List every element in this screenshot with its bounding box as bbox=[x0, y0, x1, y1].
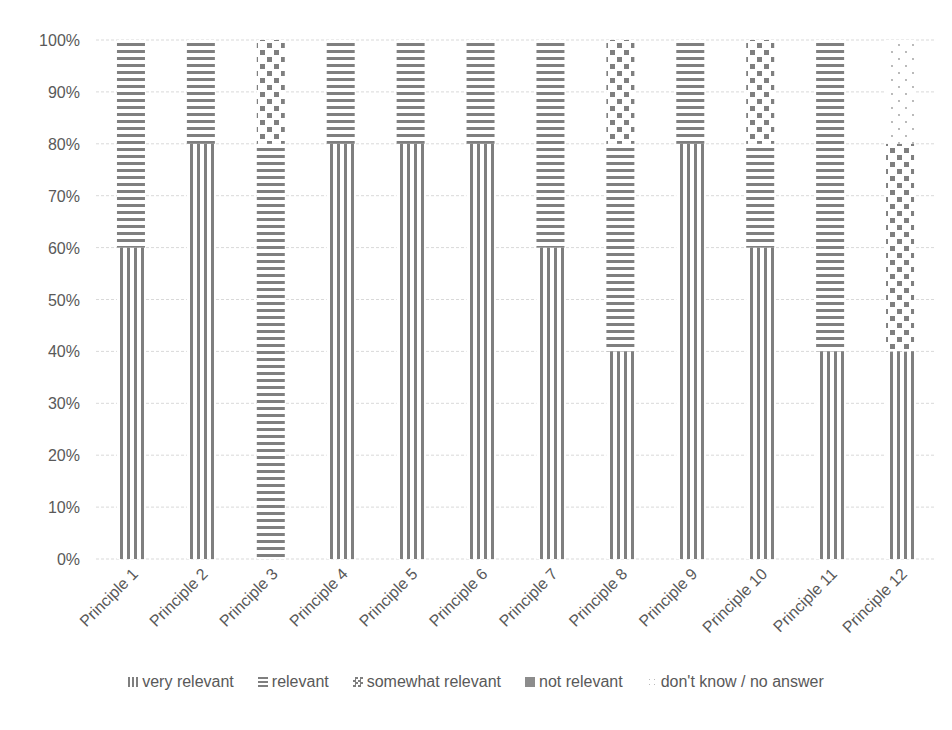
y-tick-label: 40% bbox=[48, 343, 80, 360]
legend-swatch-icon bbox=[258, 677, 268, 687]
y-tick-label: 20% bbox=[48, 447, 80, 464]
bar-segment-very-relevant bbox=[746, 248, 774, 559]
x-tick-label: Principle 10 bbox=[699, 565, 770, 636]
y-tick-label: 30% bbox=[48, 395, 80, 412]
bar-segment-very-relevant bbox=[676, 144, 704, 559]
bar-segment-relevant bbox=[327, 40, 355, 144]
legend-label: very relevant bbox=[142, 673, 234, 691]
bar-3 bbox=[257, 40, 285, 559]
x-tick-label: Principle 3 bbox=[216, 565, 281, 630]
bar-segment-relevant bbox=[536, 40, 564, 248]
y-tick-label: 90% bbox=[48, 84, 80, 101]
legend-swatch-icon bbox=[353, 677, 363, 687]
bar-8 bbox=[606, 40, 634, 559]
bar-segment-very-relevant bbox=[117, 248, 145, 559]
x-tick-label: Principle 11 bbox=[770, 565, 840, 635]
bar-10 bbox=[746, 40, 774, 559]
bar-segment-very-relevant bbox=[536, 248, 564, 559]
legend-label: not relevant bbox=[539, 673, 623, 691]
bar-segment-relevant bbox=[816, 40, 844, 351]
bar-segment-somewhat-relevant bbox=[257, 40, 285, 144]
legend-item: not relevant bbox=[525, 673, 623, 691]
x-tick-label: Principle 1 bbox=[76, 565, 141, 630]
bar-segment-somewhat-relevant bbox=[606, 40, 634, 144]
legend-swatch-icon bbox=[128, 677, 138, 687]
x-axis: Principle 1Principle 2Principle 3Princip… bbox=[76, 565, 910, 636]
bar-segment-very-relevant bbox=[467, 144, 495, 559]
bar-segment-very-relevant bbox=[397, 144, 425, 559]
x-tick-label: Principle 5 bbox=[356, 565, 421, 630]
x-tick-label: Principle 2 bbox=[146, 565, 211, 630]
y-axis: 0%10%20%30%40%50%60%70%80%90%100% bbox=[39, 32, 80, 568]
legend-swatch-icon bbox=[647, 677, 657, 687]
bar-9 bbox=[676, 40, 704, 559]
y-tick-label: 0% bbox=[57, 551, 80, 568]
bar-segment-somewhat-relevant bbox=[886, 144, 914, 352]
bar-segment-relevant bbox=[397, 40, 425, 144]
x-tick-label: Principle 6 bbox=[426, 565, 491, 630]
legend-item: very relevant bbox=[128, 673, 234, 691]
bar-5 bbox=[397, 40, 425, 559]
bar-12 bbox=[886, 40, 914, 559]
y-tick-label: 60% bbox=[48, 240, 80, 257]
x-tick-label: Principle 9 bbox=[636, 565, 701, 630]
bar-segment-relevant bbox=[467, 40, 495, 144]
legend-item: relevant bbox=[258, 673, 329, 691]
bar-segment-very-relevant bbox=[187, 144, 215, 559]
legend-label: relevant bbox=[272, 673, 329, 691]
gridlines bbox=[96, 40, 935, 559]
bar-segment-relevant bbox=[746, 144, 774, 248]
bar-4 bbox=[327, 40, 355, 559]
bar-segment-relevant bbox=[117, 40, 145, 248]
y-tick-label: 70% bbox=[48, 188, 80, 205]
x-tick-label: Principle 7 bbox=[496, 565, 561, 630]
y-tick-label: 100% bbox=[39, 32, 80, 49]
legend: very relevantrelevantsomewhat relevantno… bbox=[0, 673, 952, 691]
bar-segment-very-relevant bbox=[886, 351, 914, 559]
bar-1 bbox=[117, 40, 145, 559]
x-tick-label: Principle 8 bbox=[566, 565, 631, 630]
stacked-bar-chart: 0%10%20%30%40%50%60%70%80%90%100% Princi… bbox=[0, 0, 952, 660]
y-tick-label: 50% bbox=[48, 292, 80, 309]
bar-segment-relevant bbox=[187, 40, 215, 144]
legend-swatch-icon bbox=[525, 677, 535, 687]
bar-segment-very-relevant bbox=[327, 144, 355, 559]
x-tick-label: Principle 12 bbox=[839, 565, 910, 636]
bar-segment-very-relevant bbox=[816, 351, 844, 559]
y-tick-label: 80% bbox=[48, 136, 80, 153]
legend-label: don't know / no answer bbox=[661, 673, 824, 691]
bar-6 bbox=[467, 40, 495, 559]
legend-item: don't know / no answer bbox=[647, 673, 824, 691]
bar-segment-relevant bbox=[676, 40, 704, 144]
bar-7 bbox=[536, 40, 564, 559]
bar-2 bbox=[187, 40, 215, 559]
y-tick-label: 10% bbox=[48, 499, 80, 516]
bar-segment-don-t-know-no-answer bbox=[886, 40, 914, 144]
x-tick-label: Principle 4 bbox=[286, 565, 351, 630]
bar-11 bbox=[816, 40, 844, 559]
legend-item: somewhat relevant bbox=[353, 673, 501, 691]
bar-segment-relevant bbox=[257, 144, 285, 559]
bar-segment-relevant bbox=[606, 144, 634, 352]
bar-segment-somewhat-relevant bbox=[746, 40, 774, 144]
bar-segment-very-relevant bbox=[606, 351, 634, 559]
legend-label: somewhat relevant bbox=[367, 673, 501, 691]
